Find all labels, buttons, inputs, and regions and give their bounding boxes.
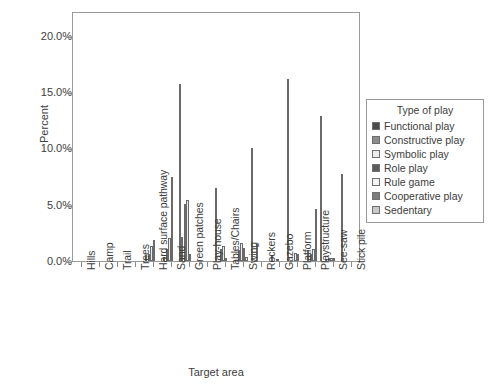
legend-item: Rule game [372,175,478,189]
x-tick-label: Rockers [265,232,277,270]
x-tick-label: Gazebo [283,234,295,270]
legend-label: Functional play [384,120,455,132]
x-tick-mark [99,262,100,267]
y-tick-label: 15.0% [24,86,72,98]
x-tick-mark [225,262,226,267]
y-axis-ticks: 0.0%5.0%10.0%15.0%20.0% [10,0,72,392]
x-tick-mark [279,262,280,267]
legend-label: Role play [384,162,428,174]
x-tick-mark [153,262,154,267]
x-tick-label: Trees [139,244,151,270]
x-tick-label: Swing [247,242,259,270]
x-tick-mark [189,262,190,267]
y-tick-label: 0.0% [24,255,72,267]
x-tick-label: Green patches [193,202,205,270]
bar [153,240,156,261]
legend-label: Sedentary [384,204,432,216]
legend-label: Symbolic play [384,148,449,160]
legend-swatch-icon [372,150,380,158]
x-tick-mark [81,262,82,267]
y-tick-label: 10.0% [24,142,72,154]
bar [333,258,336,261]
x-axis-label: Target area [72,366,360,378]
legend-item: Sedentary [372,203,478,217]
x-tick-label: Trail [121,250,133,270]
legend-title: Type of play [372,104,478,116]
bar [171,177,174,261]
x-tick-label: Hard surface pathway [157,170,169,270]
x-tick-label: Play-house [211,218,223,270]
bar [225,258,228,261]
x-tick-mark [297,262,298,267]
x-tick-mark [207,262,208,267]
bar [315,209,318,261]
legend-label: Rule game [384,176,435,188]
legend-label: Constructive play [384,134,465,146]
x-tick-mark [171,262,172,267]
legend-item: Cooperative play [372,189,478,203]
bar [297,254,300,261]
legend-swatch-icon [372,164,380,172]
x-tick-label: Stick pile [355,229,367,270]
legend-item: Symbolic play [372,147,478,161]
x-tick-mark [243,262,244,267]
legend-swatch-icon [372,192,380,200]
y-tick-label: 5.0% [24,199,72,211]
legend-label: Cooperative play [384,190,463,202]
x-tick-label: Camp [103,242,115,270]
legend-swatch-icon [372,136,380,144]
x-tick-label: See-saw [337,230,349,270]
x-tick-mark [351,262,352,267]
y-tick-label: 20.0% [24,30,72,42]
legend-swatch-icon [372,206,380,214]
x-tick-mark [135,262,136,267]
x-tick-mark [261,262,262,267]
legend-swatch-icon [372,122,380,130]
x-tick-label: Tables/Chairs [229,208,241,270]
x-tick-mark [315,262,316,267]
x-tick-mark [333,262,334,267]
y-tick-mark [67,262,72,263]
legend-item: Role play [372,161,478,175]
bar [189,254,192,261]
x-tick-label: Playstructure [319,210,331,270]
x-tick-label: Sand [175,246,187,270]
chart-figure: Percent 0.0%5.0%10.0%15.0%20.0% HillsCam… [0,0,490,392]
legend-item: Constructive play [372,133,478,147]
x-tick-label: Hills [85,251,97,270]
legend-rows: Functional playConstructive playSymbolic… [372,119,478,217]
bar [179,84,182,261]
legend: Type of play Functional playConstructive… [366,99,484,223]
x-tick-mark [117,262,118,267]
legend-item: Functional play [372,119,478,133]
x-tick-label: Platform [301,232,313,270]
legend-swatch-icon [372,178,380,186]
